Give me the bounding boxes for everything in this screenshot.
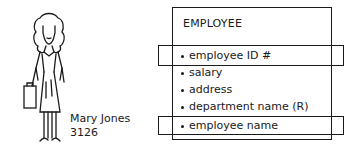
person-id: 3126 xyxy=(70,126,130,140)
attribute-department-name: department name (R) xyxy=(181,100,309,114)
bullet-icon xyxy=(181,106,184,109)
bullet-icon xyxy=(181,89,184,92)
person-name: Mary Jones xyxy=(70,112,130,126)
attribute-salary: salary xyxy=(181,66,222,80)
attribute-address: address xyxy=(181,83,232,97)
person-caption: Mary Jones 3126 xyxy=(70,112,130,140)
entity-title: EMPLOYEE xyxy=(183,17,242,30)
bullet-icon xyxy=(181,72,184,75)
highlight-employee-name xyxy=(158,116,344,135)
highlight-employee-id xyxy=(158,45,344,66)
woman-sketch-icon xyxy=(18,8,78,148)
